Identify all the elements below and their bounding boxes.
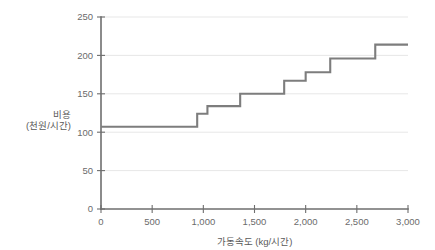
y-tick-label-200: 200 [77,50,93,61]
chart-container: 050100150200250 05001,0001,5002,0002,500… [0,0,435,250]
x-tick-label-0: 0 [98,216,103,227]
y-tick-label-50: 50 [82,165,93,176]
y-tick-label-100: 100 [77,127,93,138]
y-tick-label-150: 150 [77,88,93,99]
x-tick-label-500: 500 [144,216,160,227]
x-tick-label-1000: 1,000 [191,216,215,227]
y-tick-label-250: 250 [77,11,93,22]
x-tick-label-3000: 3,000 [396,216,420,227]
y-axis-title-line2: (천원/시간) [26,120,71,131]
y-tick-label-0: 0 [88,203,93,214]
x-tick-label-2000: 2,000 [294,216,318,227]
x-axis-title: 가동속도 (kg/시간) [217,236,293,247]
x-tick-label-2500: 2,500 [345,216,369,227]
x-tick-label-1500: 1,500 [243,216,267,227]
y-axis-title-line1: 비용 [53,109,71,120]
step-cost-chart: 050100150200250 05001,0001,5002,0002,500… [0,0,435,250]
